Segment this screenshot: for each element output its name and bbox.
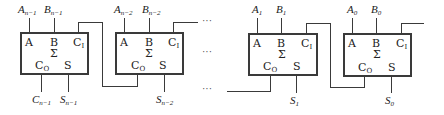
input-a-label: A0 — [346, 3, 358, 17]
input-b-label: B1 — [276, 3, 286, 17]
port-a-label: A — [119, 36, 129, 49]
carry-in-wire-n-2 — [173, 22, 198, 33]
full-adder-1: A1 B1 A B CI Σ CO S S1 — [249, 3, 317, 108]
input-a-label: A1 — [251, 3, 262, 17]
ellipsis-middle: ··· — [202, 46, 212, 57]
port-a-label: A — [252, 37, 262, 50]
ripple-carry-adder-diagram: An−1 Bn−1 A B CI Σ CO S Cn−1 Sn−1 An−2 B… — [0, 0, 444, 115]
ellipsis-bottom: ··· — [202, 83, 212, 94]
port-s-label: S — [293, 60, 301, 73]
port-a-label: A — [24, 36, 34, 49]
full-adder-n-minus-2: An−2 Bn−2 A B CI Σ CO S Sn−2 — [113, 3, 183, 107]
sigma-label: Σ — [278, 48, 286, 61]
port-a-label: A — [347, 37, 357, 50]
carry-in-wire-adder-0 — [401, 23, 424, 34]
carry-out-label: Cn−1 — [32, 93, 51, 107]
input-b-label: B0 — [371, 3, 382, 17]
port-s-label: S — [159, 59, 167, 72]
sigma-label: Σ — [145, 47, 153, 60]
sigma-label: Σ — [373, 48, 381, 61]
sigma-label: Σ — [50, 47, 58, 60]
port-s-label: S — [64, 59, 72, 72]
sum-out-label: Sn−2 — [156, 93, 174, 107]
port-s-label: S — [388, 61, 396, 74]
input-b-label: Bn−1 — [44, 3, 62, 17]
full-adder-n-minus-1: An−1 Bn−1 A B CI Σ CO S Cn−1 Sn−1 — [17, 3, 88, 107]
ellipsis-top: ··· — [202, 15, 212, 26]
full-adder-0: A0 B0 A B CI Σ CO S S0 — [344, 3, 411, 108]
sum-out-label: S1 — [290, 94, 299, 108]
carry-out-wire-adder-1 — [227, 75, 270, 91]
input-b-label: Bn−2 — [142, 3, 161, 17]
sum-out-label: Sn−1 — [60, 93, 77, 107]
sum-out-label: S0 — [385, 94, 395, 108]
input-a-label: An−2 — [113, 3, 133, 17]
input-a-label: An−1 — [17, 3, 36, 17]
